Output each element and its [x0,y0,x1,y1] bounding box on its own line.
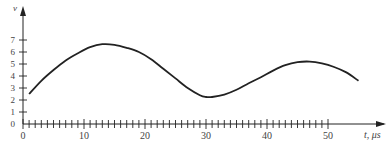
y-tick-label: 5 [11,59,16,69]
x-axis-label: t, μs [364,129,381,140]
x-tick-label: 10 [79,130,89,141]
y-axis-label: v [13,3,17,13]
y-tick-label: 3 [11,83,16,93]
x-tick-label: 40 [262,130,272,141]
tick-marks [19,40,328,129]
y-tick-label: 7 [11,35,16,45]
x-axis-arrow-icon [376,121,386,127]
y-tick-label: 0 [11,119,16,129]
x-tick-label: 20 [140,130,150,141]
line-chart: 0102030405001234567 v t, μs [0,0,390,147]
y-tick-label: 6 [11,47,16,57]
x-tick-label: 50 [323,130,333,141]
data-series-line [29,44,358,97]
y-tick-label: 4 [11,71,16,81]
tick-labels: 0102030405001234567 [11,35,334,141]
y-tick-label: 1 [11,107,16,117]
y-axis-arrow-icon [20,6,26,16]
x-tick-label: 30 [201,130,211,141]
x-tick-label: 0 [21,130,26,141]
y-tick-label: 2 [11,95,16,105]
